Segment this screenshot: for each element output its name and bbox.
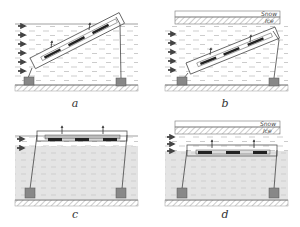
inclined-array-diagram <box>0 0 150 100</box>
anchor-block <box>269 78 279 86</box>
panel-a: a <box>0 0 150 115</box>
anchor-block <box>24 77 34 85</box>
pv-module <box>75 138 89 141</box>
horizontal-submerged-array-diagram: Snow Ice <box>150 115 300 212</box>
seabed <box>15 200 138 206</box>
pv-module <box>226 151 240 154</box>
panel-caption: b <box>150 97 300 110</box>
anchor-block <box>177 77 187 85</box>
seabed <box>165 200 288 206</box>
pv-module <box>48 138 62 141</box>
water-body <box>15 25 138 83</box>
panel-c: c <box>0 115 150 227</box>
snow-label: Snow <box>261 10 277 17</box>
snow-label: Snow <box>260 120 276 127</box>
panel-d: Snow Ice d <box>150 115 300 227</box>
pv-module <box>198 151 212 154</box>
anchor-block <box>177 188 187 198</box>
pv-module <box>103 138 117 141</box>
figure: a Snow Ice <box>0 0 300 227</box>
inclined-array-under-ice-diagram: Snow Ice <box>150 0 300 100</box>
anchor-block <box>25 188 35 198</box>
horizontal-surface-array-diagram <box>0 115 150 212</box>
anchor-block <box>116 78 126 86</box>
panel-caption: d <box>150 208 300 221</box>
panel-b: Snow Ice <box>150 0 300 115</box>
ice-label: Ice <box>265 17 274 24</box>
anchor-block <box>116 188 126 198</box>
ice-label: Ice <box>263 127 272 134</box>
float-arrow-icon <box>62 126 103 134</box>
panel-caption: a <box>0 97 150 110</box>
anchor-block <box>269 188 279 198</box>
panel-caption: c <box>0 208 150 221</box>
pv-module <box>253 151 267 154</box>
